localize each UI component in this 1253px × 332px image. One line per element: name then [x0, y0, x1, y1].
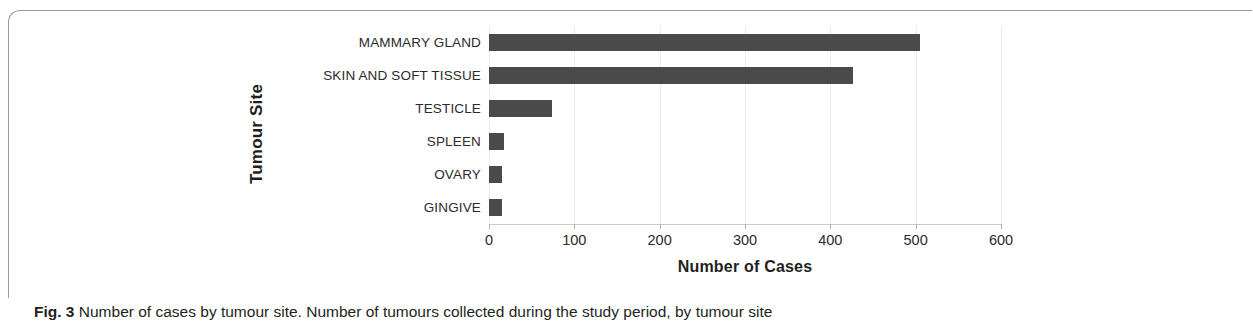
x-axis-tick-labels: 0100200300400500600 — [489, 232, 1001, 254]
x-tick-mark — [830, 224, 831, 229]
x-tick-label: 300 — [715, 232, 775, 248]
bar — [489, 199, 502, 216]
figure-caption-text: Number of cases by tumour site. Number o… — [79, 303, 773, 320]
bar — [489, 100, 552, 117]
bar — [489, 166, 502, 183]
x-tick-label: 500 — [886, 232, 946, 248]
y-axis-tick-labels: MAMMARY GLANDSKIN AND SOFT TISSUETESTICL… — [288, 26, 481, 224]
bar-chart: Tumour Site MAMMARY GLANDSKIN AND SOFT T… — [0, 0, 1253, 300]
bar — [489, 133, 504, 150]
x-tick-mark — [745, 224, 746, 229]
y-tick-label: GINGIVE — [424, 191, 481, 224]
x-tick-mark — [916, 224, 917, 229]
x-tick-mark — [660, 224, 661, 229]
gridline — [745, 26, 746, 224]
gridline — [1001, 26, 1002, 224]
y-tick-label: MAMMARY GLAND — [359, 26, 481, 59]
y-tick-label: TESTICLE — [415, 92, 481, 125]
gridline — [660, 26, 661, 224]
x-tick-label: 600 — [971, 232, 1031, 248]
x-tick-label: 0 — [459, 232, 519, 248]
gridline — [574, 26, 575, 224]
x-tick-mark — [489, 224, 490, 229]
gridline — [489, 26, 490, 224]
bar — [489, 67, 853, 84]
x-tick-label: 400 — [800, 232, 860, 248]
y-tick-label: SKIN AND SOFT TISSUE — [323, 59, 481, 92]
gridline — [916, 26, 917, 224]
figure-caption: Fig. 3 Number of cases by tumour site. N… — [34, 303, 1214, 321]
x-tick-mark — [1001, 224, 1002, 229]
x-tick-label: 100 — [544, 232, 604, 248]
x-tick-label: 200 — [630, 232, 690, 248]
figure-container: Tumour Site MAMMARY GLANDSKIN AND SOFT T… — [0, 0, 1253, 332]
figure-caption-label: Fig. 3 — [34, 303, 74, 320]
y-tick-label: OVARY — [434, 158, 481, 191]
x-axis-title: Number of Cases — [489, 258, 1001, 276]
bar — [489, 34, 920, 51]
y-axis-title: Tumour Site — [247, 64, 269, 204]
gridline — [830, 26, 831, 224]
plot-area — [489, 26, 1001, 224]
y-tick-label: SPLEEN — [427, 125, 481, 158]
x-tick-mark — [574, 224, 575, 229]
